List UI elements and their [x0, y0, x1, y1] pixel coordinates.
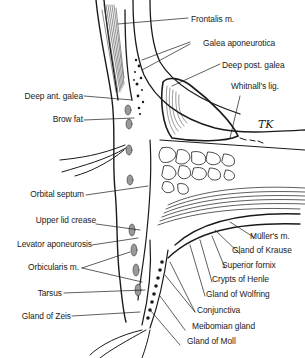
label-gland-of-krause: Gland of Krause — [232, 245, 292, 255]
artist-signature: TK — [258, 118, 274, 131]
label-crypts-of-henle: Crypts of Henle — [212, 274, 269, 284]
label-galea-aponeurotica: Galea aponeurotica — [203, 38, 275, 48]
label-meibomian-gland: Meibomian gland — [192, 321, 255, 331]
eyelid-anatomy-illustration: TK — [0, 0, 305, 358]
label-conjunctiva: Conjunctiva — [197, 305, 240, 315]
label-gland-of-wolfring: Gland of Wolfring — [206, 289, 270, 299]
label-tarsus: Tarsus — [38, 288, 62, 298]
label-levator-aponeurosis: Levator aponeurosis — [17, 239, 92, 249]
brow-fat-dots — [133, 59, 144, 115]
label-orbital-septum: Orbital septum — [30, 189, 84, 199]
label-deep-ant-galea: Deep ant. galea — [25, 91, 83, 101]
eyelashes — [90, 330, 150, 358]
brow-hairs — [60, 145, 126, 176]
label-gland-of-moll: Gland of Moll — [187, 336, 236, 346]
frontalis-muscle — [102, 5, 124, 92]
label-deep-post-galea: Deep post. galea — [222, 60, 285, 70]
label-mullers-m: Müller's m. — [250, 231, 290, 241]
tarsal-plate — [142, 240, 168, 328]
orbicularis-muscle — [125, 105, 141, 296]
label-orbicularis-m: Orbicularis m. — [28, 262, 79, 272]
label-whitnalls-lig: Whitnall's lig. — [231, 81, 279, 91]
orbital-fat-lobules — [159, 147, 235, 194]
label-frontalis: Frontalis m. — [191, 14, 234, 24]
label-gland-of-zeis: Gland of Zeis — [22, 311, 71, 321]
leader-lines-left — [64, 96, 148, 316]
label-upper-lid-crease: Upper lid crease — [36, 215, 96, 225]
label-brow-fat: Brow fat — [53, 114, 83, 124]
bone-contour-lines — [166, 86, 187, 134]
whitnalls-ligament — [240, 138, 263, 143]
label-superior-fornix: Superior fornix — [222, 260, 276, 270]
